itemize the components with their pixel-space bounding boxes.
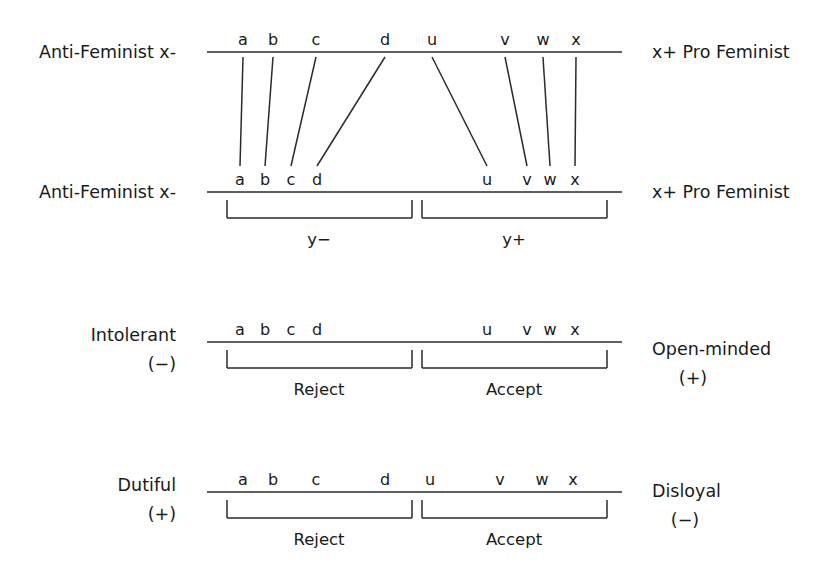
- row-4-bracket-reject-label: Reject: [293, 530, 345, 549]
- row-1-item-c: c: [312, 30, 321, 49]
- connector-x: [575, 57, 576, 166]
- row-1-right-label: x+ Pro Feminist: [652, 42, 790, 62]
- row-3-item-a: a: [235, 320, 245, 339]
- connector-group: [240, 57, 576, 166]
- row-4-item-c: c: [312, 470, 321, 489]
- connector-d: [317, 57, 385, 166]
- row-4-bracket-accept: [422, 500, 607, 518]
- row-1-attitude-scale-top: Anti-Feminist x- x+ Pro Feminist a b c d…: [39, 30, 790, 62]
- row-2-bracket-positive-label: y+: [502, 230, 526, 249]
- row-2-item-a: a: [235, 170, 245, 189]
- row-1-item-d: d: [380, 30, 390, 49]
- row-4-item-w: w: [535, 470, 548, 489]
- row-4-bracket-accept-label: Accept: [486, 530, 543, 549]
- row-2-item-w: w: [543, 170, 556, 189]
- connector-c: [291, 57, 316, 166]
- scale-diagram-svg: Anti-Feminist x- x+ Pro Feminist a b c d…: [0, 0, 816, 577]
- connector-w: [543, 57, 550, 166]
- row-3-item-b: b: [260, 320, 270, 339]
- row-2-item-u: u: [482, 170, 492, 189]
- row-2-item-b: b: [260, 170, 270, 189]
- row-2-item-v: v: [522, 170, 531, 189]
- row-4-right-label-line1: Disloyal: [652, 481, 721, 501]
- row-4-item-d: d: [380, 470, 390, 489]
- connector-a: [240, 57, 243, 166]
- row-3-left-label-line1: Intolerant: [91, 325, 176, 345]
- row-4-item-u: u: [425, 470, 435, 489]
- row-2-item-x: x: [570, 170, 579, 189]
- row-4-left-label-line1: Dutiful: [118, 475, 176, 495]
- row-4-item-a: a: [238, 470, 248, 489]
- row-3-bracket-accept: [422, 350, 607, 368]
- row-2-item-d: d: [312, 170, 322, 189]
- row-3-item-v: v: [522, 320, 531, 339]
- row-2-left-label: Anti-Feminist x-: [39, 182, 176, 202]
- connector-v: [505, 57, 527, 166]
- row-3-tolerance-scale: Intolerant (−) Open-minded (+) a b c d u…: [91, 320, 771, 399]
- row-3-right-label-line2: (+): [679, 368, 707, 388]
- row-4-left-label-line2: (+): [148, 504, 176, 524]
- row-1-item-w: w: [536, 30, 549, 49]
- row-4-bracket-reject: [227, 500, 412, 518]
- row-3-item-u: u: [482, 320, 492, 339]
- row-3-item-c: c: [287, 320, 296, 339]
- row-2-item-c: c: [287, 170, 296, 189]
- row-3-item-x: x: [570, 320, 579, 339]
- row-2-bracket-negative-label: y−: [307, 230, 331, 249]
- row-4-loyalty-scale: Dutiful (+) Disloyal (−) a b c d u v w x…: [118, 470, 721, 549]
- connector-u: [432, 57, 487, 166]
- row-3-bracket-reject: [227, 350, 412, 368]
- row-1-item-a: a: [238, 30, 248, 49]
- row-3-bracket-accept-label: Accept: [486, 380, 543, 399]
- row-3-item-w: w: [543, 320, 556, 339]
- row-2-latitude-scale: Anti-Feminist x- x+ Pro Feminist a b c d…: [39, 170, 790, 249]
- row-3-item-d: d: [312, 320, 322, 339]
- row-1-item-x: x: [571, 30, 580, 49]
- row-4-item-b: b: [268, 470, 278, 489]
- row-4-item-v: v: [495, 470, 504, 489]
- row-2-bracket-positive: [422, 200, 607, 218]
- assimilation-contrast-diagram: Anti-Feminist x- x+ Pro Feminist a b c d…: [0, 0, 816, 577]
- row-4-item-x: x: [568, 470, 577, 489]
- row-1-item-u: u: [427, 30, 437, 49]
- row-3-bracket-reject-label: Reject: [293, 380, 345, 399]
- row-2-right-label: x+ Pro Feminist: [652, 182, 790, 202]
- row-4-right-label-line2: (−): [671, 510, 699, 530]
- row-2-bracket-negative: [227, 200, 412, 218]
- connector-b: [265, 57, 273, 166]
- row-1-left-label: Anti-Feminist x-: [39, 42, 176, 62]
- row-3-left-label-line2: (−): [148, 354, 176, 374]
- row-3-right-label-line1: Open-minded: [652, 339, 771, 359]
- row-1-item-b: b: [268, 30, 278, 49]
- row-1-item-v: v: [500, 30, 509, 49]
